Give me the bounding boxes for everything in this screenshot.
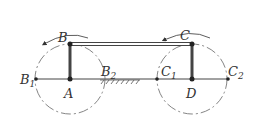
linkage-diagram: B C A D B1 B2 C1 C2: [0, 0, 260, 137]
diagram-svg: B C A D B1 B2 C1 C2: [0, 0, 260, 137]
label-b: B: [57, 30, 68, 45]
ground-hatch: [100, 80, 140, 84]
link-bc: [70, 43, 192, 46]
label-c2: C2: [228, 64, 244, 81]
label-c1: C1: [161, 64, 177, 81]
label-b1: B1: [19, 72, 35, 89]
label-d: D: [185, 86, 197, 101]
label-c: C: [180, 28, 190, 43]
joints: [34, 42, 230, 82]
label-b2: B2: [100, 64, 117, 81]
label-a: A: [63, 86, 73, 101]
